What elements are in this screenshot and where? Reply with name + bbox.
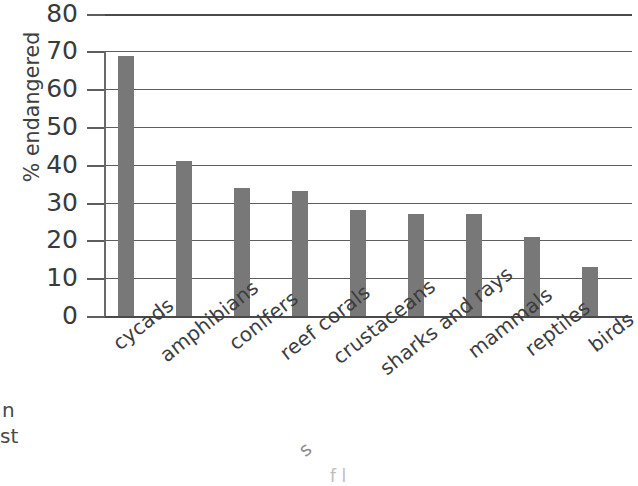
tick-mark [87, 240, 105, 242]
y-tick-label: 30 [26, 190, 78, 215]
y-axis-tick-labels: 80 70 60 50 40 30 20 10 0 [16, 0, 78, 330]
tick-mark [87, 14, 105, 16]
bars [105, 0, 632, 330]
y-tick-label: 40 [26, 152, 78, 177]
bar-cycads[interactable] [118, 56, 134, 316]
x-axis-labels: cycads amphibians conifers reef corals c… [105, 316, 632, 475]
tick-mark [87, 203, 105, 205]
y-tick-label: 70 [26, 38, 78, 63]
cropped-caption-fragment-upper: n [2, 398, 15, 422]
tick-mark [87, 127, 105, 129]
cropped-caption-fragment-lower: st [0, 424, 18, 448]
y-tick-label: 80 [26, 1, 78, 26]
y-tick-label: 10 [26, 265, 78, 290]
bar-amphibians[interactable] [176, 161, 192, 316]
cropped-caption-fragment-bottom: f l [330, 466, 346, 486]
y-tick-label: 60 [26, 76, 78, 101]
y-tick-label: 0 [26, 303, 78, 328]
tick-mark [87, 89, 105, 91]
y-tick-label: 20 [26, 227, 78, 252]
tick-mark [87, 51, 105, 53]
y-tick-label: 50 [26, 114, 78, 139]
tick-mark [87, 165, 105, 167]
tick-mark [87, 278, 105, 280]
tick-mark [87, 316, 105, 318]
